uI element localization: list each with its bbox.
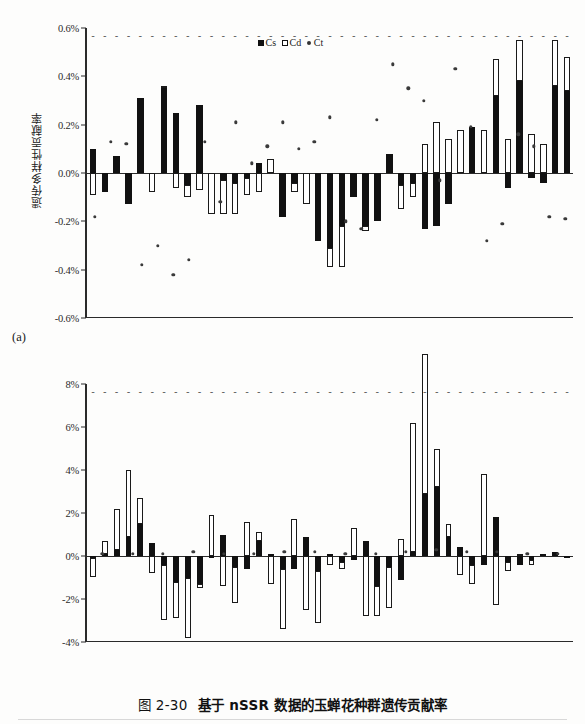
bar-segment-open xyxy=(267,159,274,174)
bar-group xyxy=(209,384,215,642)
scatter-point xyxy=(465,550,468,553)
bar-segment-solid xyxy=(161,88,168,173)
bar-group xyxy=(350,28,357,318)
x-tick-label: ▬ xyxy=(175,391,178,394)
bar-segment-open xyxy=(291,183,298,193)
x-tick-label: ▬ xyxy=(471,35,474,38)
x-tick-label: ▬ xyxy=(329,391,332,394)
bar-segment-open xyxy=(493,59,500,95)
chart-panel-a: 遗传多样性贡献率 Cs Cd Ct 0.6%0.4%0.2%0.0%-0.2%-… xyxy=(0,0,585,352)
bar-segment-solid xyxy=(528,173,535,178)
bar-group xyxy=(208,28,215,318)
bar-segment-open xyxy=(149,173,156,192)
bar-segment-solid xyxy=(113,156,120,173)
x-tick-label: ▬ xyxy=(352,35,355,38)
bar-segment-open xyxy=(564,57,571,91)
bar-group xyxy=(303,384,309,642)
x-tick-label: ▬ xyxy=(103,35,106,38)
bar-segment-open xyxy=(410,423,416,552)
bar-group xyxy=(410,28,417,318)
bar-group xyxy=(516,28,523,318)
bar-segment-open xyxy=(126,470,132,537)
bar-group xyxy=(374,28,381,318)
bar-segment-open xyxy=(457,130,464,174)
bar-segment-open xyxy=(363,556,369,616)
bar-segment-solid xyxy=(220,173,227,180)
bar-group xyxy=(540,28,547,318)
bar-group xyxy=(149,384,155,642)
bar-group xyxy=(386,28,393,318)
x-tick-label: ▬ xyxy=(317,391,320,394)
bar-group xyxy=(422,28,429,318)
bar-segment-open xyxy=(481,474,487,556)
x-tick-label: ▬ xyxy=(459,35,462,38)
bar-group xyxy=(529,384,535,642)
bar-segment-open xyxy=(137,498,143,524)
bar-segment-open xyxy=(256,532,262,541)
bar-segment-open xyxy=(457,556,463,575)
x-tick-label: ▬ xyxy=(507,391,510,394)
bar-segment-open xyxy=(481,130,488,174)
bar-group xyxy=(339,384,345,642)
bar-group xyxy=(422,384,428,642)
bar-group xyxy=(339,28,346,318)
x-tick-labels-b: ▬▬▬▬▬▬▬▬▬▬▬▬▬▬▬▬▬▬▬▬▬▬▬▬▬▬▬▬▬▬▬▬▬▬▬▬▬▬▬▬… xyxy=(87,384,573,394)
x-tick-label: ▬ xyxy=(127,35,130,38)
x-tick-label: ▬ xyxy=(341,391,344,394)
x-tick-label: ▬ xyxy=(376,35,379,38)
scatter-point xyxy=(109,140,112,143)
bar-group xyxy=(351,384,357,642)
bar-segment-solid xyxy=(516,81,523,173)
bar-segment-solid xyxy=(315,556,321,571)
bar-segment-open xyxy=(410,183,417,198)
scatter-point xyxy=(391,63,394,66)
x-tick-label: ▬ xyxy=(412,35,415,38)
bar-group xyxy=(232,384,238,642)
bar-group xyxy=(517,384,523,642)
x-tick-label: ▬ xyxy=(341,35,344,38)
bar-group xyxy=(362,28,369,318)
bar-segment-solid xyxy=(351,556,357,560)
bar-segment-solid xyxy=(445,173,452,204)
x-tick-label: ▬ xyxy=(305,35,308,38)
x-tick-label: ▬ xyxy=(554,391,557,394)
x-tick-label: ▬ xyxy=(388,35,391,38)
bar-group xyxy=(433,28,440,318)
scatter-point xyxy=(404,550,407,553)
x-tick-label: ▬ xyxy=(92,35,95,38)
bar-group xyxy=(256,28,263,318)
x-tick-label: ▬ xyxy=(246,35,249,38)
bar-segment-solid xyxy=(291,556,297,569)
x-tick-label: ▬ xyxy=(352,391,355,394)
x-tick-label: ▬ xyxy=(376,391,379,394)
bar-group xyxy=(540,384,546,642)
bar-segment-solid xyxy=(457,547,463,556)
bar-group xyxy=(564,384,570,642)
bar-segment-solid xyxy=(398,556,404,580)
scatter-point xyxy=(283,550,286,553)
bar-segment-open xyxy=(196,173,203,190)
bar-group xyxy=(102,384,108,642)
y-tick-label: 0.4% xyxy=(58,71,79,82)
x-tick-label: ▬ xyxy=(518,391,521,394)
bar-group xyxy=(184,28,191,318)
bar-segment-solid xyxy=(564,556,570,558)
bar-segment-solid xyxy=(256,163,263,173)
bar-group xyxy=(113,28,120,318)
x-tick-label: ▬ xyxy=(210,391,213,394)
bar-group xyxy=(434,384,440,642)
bar-segment-solid xyxy=(149,543,155,556)
bar-group xyxy=(256,384,262,642)
bar-group xyxy=(469,384,475,642)
bar-group xyxy=(244,384,250,642)
x-tick-label: ▬ xyxy=(92,391,95,394)
x-tick-label: ▬ xyxy=(566,391,569,394)
bar-segment-solid xyxy=(232,556,238,567)
bar-segment-solid xyxy=(173,556,179,582)
x-tick-label: ▬ xyxy=(542,35,545,38)
bar-segment-open xyxy=(315,571,321,623)
x-tick-label: ▬ xyxy=(139,391,142,394)
bar-group xyxy=(114,384,120,642)
bar-segment-solid xyxy=(363,541,369,556)
bar-group xyxy=(161,28,168,318)
